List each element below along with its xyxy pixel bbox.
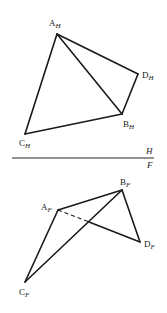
edge-af-cf [25,210,58,282]
edge-cf-bf [25,190,122,282]
vertex-label-af: AF [41,202,53,214]
edge-dh-bh [122,74,138,114]
top-view: AH DH BH CH [19,18,155,150]
plane-label-f: F [146,160,153,170]
edge-ah-bh [57,34,122,114]
vertex-label-dh: DH [142,70,155,82]
vertex-label-df: DF [144,239,156,251]
edge-ah-dh [57,34,138,74]
edge-af-df-hidden [58,210,89,222]
vertex-label-ah: AH [49,18,62,30]
projection-diagram: AH DH BH CH H F BF AF DF CF [0,0,167,313]
edge-bf-df [122,190,140,242]
vertex-label-bf: BF [120,177,131,189]
front-view: BF AF DF CF [19,177,156,299]
edge-bh-ch [25,114,122,134]
fold-line-group: H F [12,146,154,170]
plane-label-h: H [145,146,153,156]
vertex-label-bh: BH [123,119,135,131]
edge-af-df-visible [89,222,140,242]
vertex-label-cf: CF [19,287,30,299]
vertex-label-ch: CH [19,138,31,150]
edge-ch-ah [25,34,57,134]
